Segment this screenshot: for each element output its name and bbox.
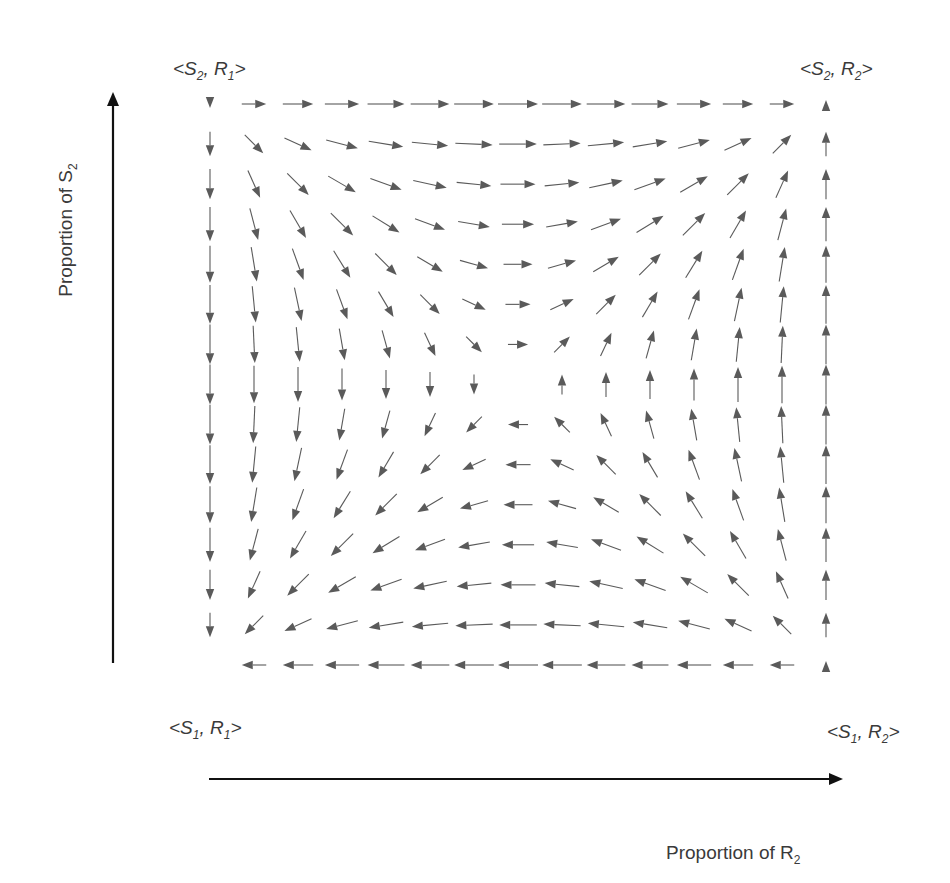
field-arrow-icon bbox=[727, 173, 749, 195]
field-arrow-icon bbox=[499, 621, 537, 629]
field-arrow-icon bbox=[589, 579, 622, 588]
field-arrow-icon bbox=[206, 486, 214, 523]
field-arrow-icon bbox=[773, 135, 791, 153]
field-arrow-icon bbox=[283, 100, 313, 108]
field-arrow-icon bbox=[639, 494, 661, 516]
field-arrow-icon bbox=[331, 534, 353, 556]
field-arrow-icon bbox=[633, 139, 667, 147]
field-arrow-icon bbox=[250, 366, 258, 404]
field-arrow-icon bbox=[723, 661, 753, 669]
field-arrow-icon bbox=[730, 210, 746, 238]
field-arrow-icon bbox=[290, 531, 306, 559]
field-arrow-icon bbox=[284, 619, 311, 631]
field-arrow-icon bbox=[251, 286, 259, 322]
field-arrow-icon bbox=[645, 411, 654, 439]
field-arrow-icon bbox=[505, 460, 530, 468]
field-arrow-icon bbox=[822, 661, 830, 672]
field-arrow-icon bbox=[294, 327, 302, 362]
field-arrow-icon bbox=[328, 176, 356, 192]
field-arrow-icon bbox=[776, 571, 788, 598]
field-arrow-icon bbox=[634, 579, 665, 590]
field-arrow-icon bbox=[326, 621, 358, 631]
field-arrow-icon bbox=[633, 620, 667, 628]
field-arrow-icon bbox=[206, 570, 214, 600]
field-arrow-icon bbox=[331, 213, 353, 235]
field-arrow-icon bbox=[328, 577, 356, 593]
field-arrow-icon bbox=[334, 251, 351, 278]
field-arrow-icon bbox=[822, 207, 830, 241]
field-arrow-icon bbox=[500, 581, 535, 589]
field-arrow-icon bbox=[245, 135, 263, 153]
field-arrow-icon bbox=[505, 300, 530, 308]
field-arrow-icon bbox=[292, 489, 303, 520]
field-arrow-icon bbox=[500, 180, 535, 188]
field-arrow-icon bbox=[778, 366, 786, 404]
field-arrow-icon bbox=[284, 138, 311, 150]
y-axis-arrowhead-icon bbox=[107, 92, 119, 106]
field-arrow-icon bbox=[588, 620, 624, 628]
field-arrow-icon bbox=[251, 247, 259, 281]
field-arrow-icon bbox=[734, 288, 743, 321]
field-arrow-icon bbox=[455, 140, 492, 148]
field-arrow-icon bbox=[558, 374, 566, 394]
field-arrow-icon bbox=[498, 100, 538, 108]
field-arrow-icon bbox=[642, 292, 657, 318]
field-arrow-icon bbox=[554, 337, 570, 353]
field-arrow-icon bbox=[686, 491, 703, 518]
field-arrow-icon bbox=[690, 368, 698, 400]
field-arrow-icon bbox=[206, 405, 214, 445]
field-arrow-icon bbox=[381, 411, 390, 439]
field-arrow-icon bbox=[373, 216, 400, 233]
field-arrow-icon bbox=[777, 487, 785, 521]
field-arrow-icon bbox=[734, 327, 742, 362]
field-arrow-icon bbox=[587, 100, 626, 108]
field-arrow-icon bbox=[369, 622, 403, 630]
field-arrow-icon bbox=[334, 491, 351, 518]
field-arrow-icon bbox=[502, 220, 534, 228]
field-arrow-icon bbox=[460, 260, 488, 269]
field-arrow-icon bbox=[773, 616, 791, 634]
field-arrow-icon bbox=[415, 219, 445, 230]
field-arrow-icon bbox=[249, 487, 257, 521]
field-arrow-icon bbox=[550, 459, 573, 470]
field-arrow-icon bbox=[777, 406, 785, 443]
field-arrow-icon bbox=[686, 251, 703, 278]
field-arrow-icon bbox=[325, 100, 359, 108]
field-arrow-icon bbox=[779, 286, 787, 322]
field-arrow-icon bbox=[678, 620, 710, 630]
field-arrow-icon bbox=[601, 333, 612, 356]
field-arrow-icon bbox=[637, 536, 664, 553]
field-arrow-icon bbox=[639, 253, 661, 275]
field-arrow-icon bbox=[691, 329, 699, 361]
field-arrow-icon bbox=[822, 570, 830, 600]
field-arrow-icon bbox=[724, 138, 751, 150]
field-arrow-icon bbox=[336, 450, 347, 480]
field-arrow-icon bbox=[822, 100, 830, 111]
field-arrow-icon bbox=[777, 529, 787, 561]
field-arrow-icon bbox=[249, 529, 259, 561]
field-arrow-icon bbox=[415, 539, 445, 550]
field-arrow-icon bbox=[646, 330, 655, 358]
field-arrow-icon bbox=[543, 140, 580, 148]
field-arrow-icon bbox=[593, 497, 619, 512]
field-arrow-icon bbox=[508, 340, 528, 348]
field-arrow-icon bbox=[375, 494, 397, 516]
field-arrow-icon bbox=[462, 459, 485, 470]
field-arrow-icon bbox=[632, 661, 669, 669]
field-arrow-icon bbox=[373, 536, 400, 553]
field-arrow-icon bbox=[206, 445, 214, 484]
field-arrow-icon bbox=[546, 219, 578, 227]
field-arrow-icon bbox=[368, 100, 405, 108]
field-arrow-icon bbox=[723, 100, 753, 108]
field-arrow-icon bbox=[822, 486, 830, 523]
field-arrow-icon bbox=[242, 100, 266, 108]
field-arrow-icon bbox=[458, 221, 490, 229]
field-arrow-icon bbox=[642, 452, 657, 478]
field-arrow-icon bbox=[593, 257, 619, 272]
field-arrow-icon bbox=[326, 140, 358, 150]
field-arrow-icon bbox=[206, 285, 214, 324]
field-arrow-icon bbox=[502, 541, 534, 549]
field-arrow-icon bbox=[822, 365, 830, 405]
field-arrow-icon bbox=[499, 140, 537, 148]
field-arrow-icon bbox=[420, 455, 439, 474]
